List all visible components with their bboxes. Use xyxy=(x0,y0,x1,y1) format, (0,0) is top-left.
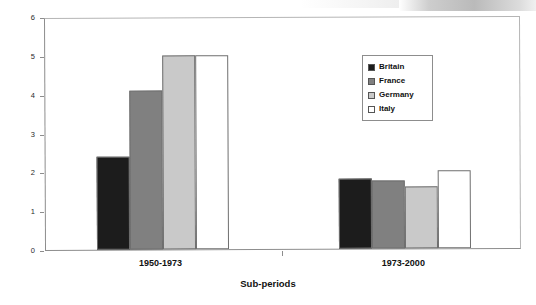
y-axis-tick-label: 0 xyxy=(31,245,35,256)
x-axis-title: Sub-periods xyxy=(0,278,536,289)
bar-italy-1950-1973 xyxy=(195,55,229,249)
bar-italy-1973-2000 xyxy=(438,170,471,248)
bar-germany-1950-1973 xyxy=(162,55,196,249)
y-axis-tick-mark xyxy=(40,135,44,136)
y-axis-tick: 3 xyxy=(0,135,44,136)
legend-swatch-france xyxy=(368,78,375,85)
y-axis-tick: 4 xyxy=(0,96,44,97)
legend-swatch-britain xyxy=(368,64,375,71)
bar-britain-1973-2000 xyxy=(339,179,372,249)
legend-item-italy: Italy xyxy=(368,102,427,116)
y-axis-tick-mark xyxy=(40,212,44,213)
y-axis-tick-label: 6 xyxy=(31,12,35,23)
y-axis-tick: 1 xyxy=(0,212,44,213)
y-axis-tick: 0 xyxy=(0,251,44,252)
bar-france-1950-1973 xyxy=(129,90,163,249)
legend-item-britain: Britain xyxy=(368,60,427,74)
legend-item-germany: Germany xyxy=(368,88,427,102)
y-axis-tick-label: 2 xyxy=(31,167,35,178)
plot-area xyxy=(44,16,521,251)
x-axis-category-label: 1973-2000 xyxy=(353,258,453,268)
y-axis-tick-label: 3 xyxy=(31,129,35,140)
legend-item-france: France xyxy=(368,74,427,88)
legend-label: France xyxy=(379,74,405,88)
x-axis-category-label: 1950-1973 xyxy=(111,258,211,268)
bar-france-1973-2000 xyxy=(372,180,405,248)
bar-chart: Growth of GDP per capita 0123456 1950-19… xyxy=(0,0,536,305)
y-axis-tick-label: 4 xyxy=(31,90,35,101)
bar-germany-1973-2000 xyxy=(405,186,438,248)
y-axis-tick: 6 xyxy=(0,18,44,19)
legend: BritainFranceGermanyItaly xyxy=(362,55,433,121)
legend-swatch-germany xyxy=(368,92,375,99)
y-axis-tick-mark xyxy=(40,251,44,252)
legend-swatch-italy xyxy=(368,106,375,113)
y-axis-tick-label: 5 xyxy=(31,51,35,62)
legend-label: Britain xyxy=(379,60,404,74)
bar-britain-1950-1973 xyxy=(96,156,129,249)
legend-label: Germany xyxy=(379,88,414,102)
y-axis-tick-mark xyxy=(40,173,44,174)
y-axis-tick: 5 xyxy=(0,57,44,58)
x-axis-separator-tick xyxy=(282,251,283,256)
bars-container xyxy=(45,17,519,19)
legend-label: Italy xyxy=(379,102,395,116)
y-axis-tick-label: 1 xyxy=(31,206,35,217)
y-axis-tick: 2 xyxy=(0,173,44,174)
